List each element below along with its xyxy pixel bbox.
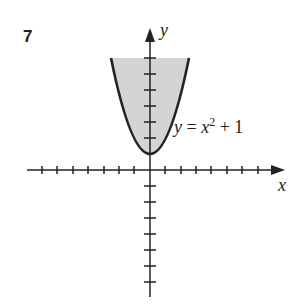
x-axis <box>27 166 278 174</box>
y-arrow-icon <box>145 28 155 42</box>
graph: 7 y x y = x2 + 1 <box>0 0 303 307</box>
problem-number: 7 <box>23 27 32 46</box>
y-axis-label: y <box>158 20 168 40</box>
x-axis-label: x <box>277 175 286 195</box>
x-arrow-icon <box>271 165 285 175</box>
curve-label: y = x2 + 1 <box>172 115 243 137</box>
